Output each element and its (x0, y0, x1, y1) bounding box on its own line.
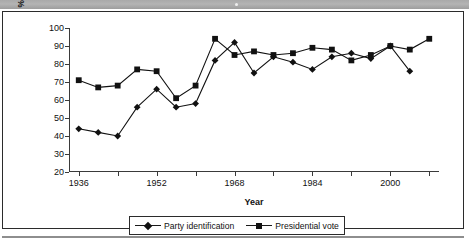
x-tick-mark (312, 172, 313, 176)
x-tick-mark (429, 172, 430, 176)
x-tick-mark (235, 172, 236, 176)
data-point-square (232, 52, 238, 58)
y-tick-label: 70 (54, 77, 64, 87)
y-tick-label: 20 (54, 167, 64, 177)
y-axis-title: % Voting/identifying Democratic (17, 0, 37, 34)
decorative-top-band (0, 0, 469, 9)
x-tick-mark (157, 172, 158, 176)
x-tick-label: 1936 (69, 178, 89, 188)
data-point-square (348, 58, 354, 64)
figure-page: % Voting/identifying Democratic 10090807… (0, 0, 469, 243)
data-point-square (76, 77, 82, 83)
y-axis-title-line1: % Voting/identifying (17, 0, 27, 34)
legend-swatch-square-icon (246, 222, 272, 230)
data-point-diamond (192, 100, 199, 107)
x-tick-mark (390, 172, 391, 176)
data-point-square (154, 68, 160, 74)
data-point-square (387, 43, 393, 49)
x-tick-mark (118, 172, 119, 176)
band-speck-icon (235, 3, 238, 6)
data-point-square (173, 95, 179, 101)
x-axis-title: Year (69, 197, 439, 207)
plot-area: % Voting/identifying Democratic 10090807… (69, 28, 439, 172)
data-point-square (310, 45, 316, 51)
x-tick-mark (273, 172, 274, 176)
legend-item-party-identification: Party identification (135, 221, 234, 231)
x-tick-label: 1968 (225, 178, 245, 188)
x-tick-label: 1952 (147, 178, 167, 188)
data-point-square (426, 36, 432, 42)
chart-figure-box: % Voting/identifying Democratic 10090807… (2, 11, 464, 229)
data-point-square (115, 83, 121, 89)
x-tick-mark (351, 172, 352, 176)
data-point-diamond (290, 59, 297, 66)
y-tick-label: 100 (49, 23, 64, 33)
data-point-square (134, 67, 140, 73)
x-tick-label: 2000 (380, 178, 400, 188)
series-lines (69, 28, 439, 172)
data-point-square (95, 85, 101, 91)
data-point-square (193, 83, 199, 89)
series-line-presidential-vote (79, 39, 430, 98)
data-point-square (329, 47, 335, 53)
legend-swatch-diamond-icon (135, 222, 161, 230)
data-point-diamond (309, 66, 316, 73)
data-point-square (407, 47, 413, 53)
x-tick-mark (196, 172, 197, 176)
data-point-diamond (328, 53, 335, 60)
data-point-diamond (95, 129, 102, 136)
x-tick-label: 1984 (302, 178, 322, 188)
y-tick-label: 80 (54, 59, 64, 69)
data-point-diamond (75, 125, 82, 132)
chart-legend: Party identification Presidential vote (129, 216, 345, 235)
legend-label: Presidential vote (275, 221, 339, 231)
series-line-party-identification (79, 42, 410, 136)
y-tick-label: 40 (54, 131, 64, 141)
y-tick-label: 90 (54, 41, 64, 51)
y-axis-title-line2: Democratic (27, 0, 37, 34)
legend-item-presidential-vote: Presidential vote (246, 221, 339, 231)
y-tick-label: 60 (54, 95, 64, 105)
x-tick-mark (79, 172, 80, 176)
data-point-diamond (348, 50, 355, 57)
y-tick-label: 30 (54, 149, 64, 159)
data-point-square (271, 52, 277, 58)
y-tick-label: 50 (54, 113, 64, 123)
data-point-square (368, 52, 374, 58)
data-point-square (212, 36, 218, 42)
y-tick-mark (65, 172, 69, 173)
data-point-square (290, 50, 296, 56)
decorative-bottom-rule (2, 236, 464, 238)
legend-label: Party identification (164, 221, 234, 231)
data-point-square (251, 49, 257, 55)
data-point-diamond (114, 133, 121, 140)
